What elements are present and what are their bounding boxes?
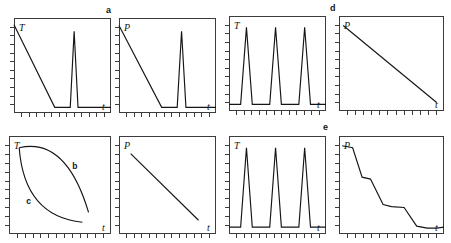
panel-letter-d: d [330,4,336,13]
plot-frame [340,17,444,111]
x-axis-label: t [102,101,105,112]
x-axis-label: t [102,222,105,233]
y-axis-label: P [343,140,350,151]
y-axis-label: T [19,22,26,33]
curve-label-b: b [72,161,77,171]
plot-panel-7: Tt [222,136,340,243]
plot-frame [120,137,216,234]
plot-panel-6: Pt [112,136,230,243]
data-curve-c [19,148,82,222]
x-axis-label: t [317,99,320,110]
x-axis-label: t [435,99,438,110]
data-curve [342,146,444,228]
x-axis-label: t [317,222,320,233]
plot-frame [10,137,111,234]
y-axis-label: P [123,22,130,33]
panel-letter-a: a [106,6,111,15]
data-curve [343,26,436,103]
plot-panel-1: Tt [7,18,125,130]
y-axis-label: P [343,20,350,31]
data-curve [229,27,326,104]
curve-label-c: c [26,196,31,206]
x-axis-label: t [207,101,210,112]
y-axis-label: P [123,140,130,151]
x-axis-label: t [207,222,210,233]
plot-panel-5: bcTt [2,136,125,243]
plot-frame [340,137,444,234]
plot-panel-3: Tt [222,16,340,128]
y-axis-label: T [14,140,21,151]
plot-panel-4: Pt [332,16,451,128]
y-axis-label: T [234,140,241,151]
panel-letter-e: e [323,123,328,132]
figure-root: TtPtTtPtbcTtPtTtPtade [0,0,451,243]
plot-panel-2: Pt [112,18,230,130]
data-curve [14,25,111,108]
y-axis-label: T [234,20,241,31]
plot-panel-8: Pt [332,136,451,243]
x-axis-label: t [435,222,438,233]
plot-frame [15,19,111,113]
data-curve [229,148,326,227]
plot-frame [120,19,216,113]
data-curve [119,26,216,108]
data-curve [131,154,199,221]
